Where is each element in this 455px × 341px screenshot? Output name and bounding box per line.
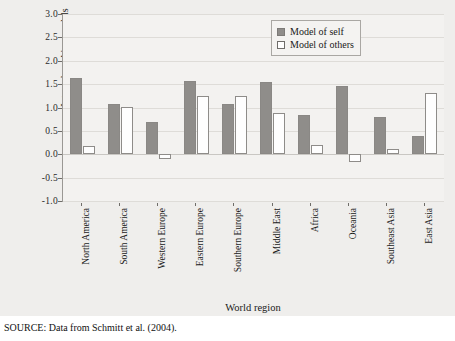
- x-axis-ticks: North AmericaSouth AmericaWestern Europe…: [62, 204, 444, 300]
- bar: [108, 104, 120, 154]
- y-tick-label: 0.0: [22, 149, 58, 159]
- x-tick-mark: [348, 203, 349, 206]
- x-tick-mark: [310, 203, 311, 206]
- legend-item-model-of-self: Model of self: [277, 25, 354, 38]
- plot-area: [62, 14, 444, 202]
- y-tick-label: -1.0: [22, 196, 58, 206]
- bar: [374, 117, 386, 154]
- y-tick-label: 3.0: [22, 9, 58, 19]
- bar: [336, 86, 348, 154]
- gridline: [63, 201, 444, 202]
- x-tick-label: Middle East: [272, 208, 282, 254]
- bar: [273, 113, 285, 155]
- y-axis-ticks: 3.02.52.01.51.00.50.0-0.5-1.0: [14, 0, 58, 341]
- bar: [412, 136, 424, 154]
- bar: [222, 104, 234, 154]
- bar: [311, 145, 323, 154]
- x-tick-mark: [195, 203, 196, 206]
- x-tick-label: Southern Europe: [233, 208, 243, 272]
- bar: [387, 149, 399, 154]
- x-tick-mark: [119, 203, 120, 206]
- bar: [349, 154, 361, 161]
- bar: [260, 82, 272, 154]
- x-tick-label: Southeast Asia: [386, 208, 396, 264]
- y-tick-label: 1.0: [22, 103, 58, 113]
- bar: [83, 146, 95, 154]
- bar: [70, 78, 82, 154]
- y-tick-label: -0.5: [22, 173, 58, 183]
- legend-label-others: Model of others: [290, 39, 354, 50]
- y-tick-label: 2.0: [22, 56, 58, 66]
- x-tick-mark: [272, 203, 273, 206]
- x-tick-label: Eastern Europe: [195, 208, 205, 266]
- figure-canvas: Internal working models 3.02.52.01.51.00…: [0, 0, 455, 341]
- x-tick-label: Oceania: [348, 208, 358, 239]
- bar: [121, 107, 133, 155]
- x-tick-label: North America: [81, 208, 91, 265]
- legend-swatch-others-icon: [277, 41, 285, 49]
- bar: [159, 154, 171, 159]
- y-tick-label: 0.5: [22, 126, 58, 136]
- x-tick-mark: [233, 203, 234, 206]
- legend-item-model-of-others: Model of others: [277, 38, 354, 51]
- legend-swatch-self-icon: [277, 28, 285, 36]
- x-tick-mark: [157, 203, 158, 206]
- bar: [425, 93, 437, 154]
- chart-legend: Model of self Model of others: [271, 20, 361, 56]
- bar: [197, 96, 209, 154]
- legend-label-self: Model of self: [290, 26, 344, 37]
- x-tick-mark: [386, 203, 387, 206]
- bar: [184, 81, 196, 154]
- x-tick-label: East Asia: [424, 208, 434, 244]
- bars-layer: [63, 14, 444, 201]
- y-tick-label: 1.5: [22, 79, 58, 89]
- bar: [235, 96, 247, 154]
- x-tick-label: South America: [119, 208, 129, 265]
- x-tick-mark: [424, 203, 425, 206]
- x-tick-label: Western Europe: [157, 208, 167, 269]
- bar: [298, 115, 310, 154]
- bar: [146, 122, 158, 154]
- x-tick-mark: [81, 203, 82, 206]
- x-axis-label: World region: [62, 302, 444, 313]
- y-tick-label: 2.5: [22, 32, 58, 42]
- x-tick-label: Africa: [310, 208, 320, 232]
- source-note: SOURCE: Data from Schmitt et al. (2004).: [4, 322, 177, 333]
